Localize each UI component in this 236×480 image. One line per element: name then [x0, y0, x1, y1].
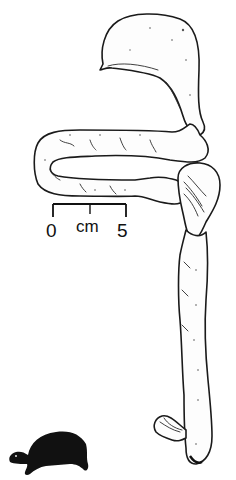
scale-bar: [53, 204, 126, 217]
turtle-silhouette-icon: [9, 432, 88, 476]
scale-min-label: 0: [46, 221, 57, 240]
figure-canvas: 0 cm 5: [0, 0, 236, 480]
caecum: [178, 163, 220, 240]
scale-max-label: 5: [117, 221, 128, 240]
stomach: [100, 14, 205, 135]
scale-unit-label: cm: [76, 218, 99, 235]
